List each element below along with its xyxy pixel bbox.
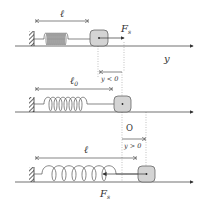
force-label: Fs [120,23,131,35]
origin-label: O [126,123,133,133]
spring-diagram: Fs ℓ y y < 0 ℓ0 O Fs ℓ y > 0 [0,0,206,201]
wall [29,31,34,46]
length-label: ℓ [84,144,88,155]
force-label: Fs [99,188,110,200]
length-label: ℓ0 [70,75,78,87]
spring-stretched [34,166,138,181]
displacement-label: y > 0 [123,142,141,150]
panel-compressed: Fs ℓ y y < 0 [15,8,193,83]
displacement-label: y < 0 [100,75,118,83]
panel-equilibrium: ℓ0 O [15,75,193,133]
spring-compressed [34,33,90,45]
spring-equilibrium [34,97,114,111]
wall [29,97,34,112]
wall [29,167,34,182]
axis-label: y [163,53,170,64]
length-label: ℓ [60,8,64,19]
panel-stretched: Fs ℓ y > 0 [15,139,193,200]
